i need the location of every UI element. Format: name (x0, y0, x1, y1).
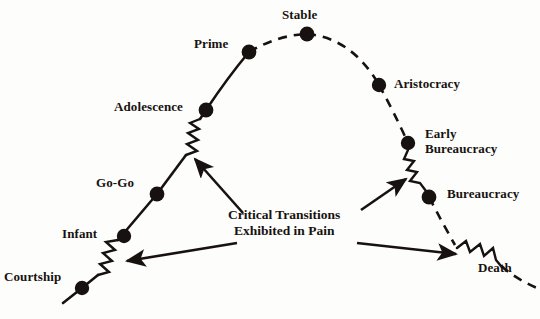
node-label-stable: Stable (282, 7, 317, 22)
node-label-early-bureaucracy-line1: Early (425, 126, 497, 141)
node-dot-stable[interactable] (300, 27, 315, 42)
callout-arrow-to-death-zigzag (357, 243, 456, 254)
critical-transitions-line1: Critical Transitions (228, 207, 340, 223)
transition-zigzag-earlybureaucracy-to-bureaucracy (404, 150, 426, 191)
node-label-infant: Infant (62, 226, 97, 241)
node-dot-courtship[interactable] (75, 281, 89, 295)
node-dot-prime[interactable] (242, 45, 257, 60)
node-label-early-bureaucracy-line2: Bureaucracy (425, 141, 497, 156)
node-label-aristocracy: Aristocracy (394, 76, 460, 91)
node-dot-infant[interactable] (117, 229, 131, 243)
lifecycle-curve-svg (0, 0, 540, 319)
node-label-prime: Prime (194, 36, 228, 51)
node-label-early-bureaucracy: Early Bureaucracy (425, 126, 497, 156)
curve-segment-stable-to-aristocracy (307, 34, 379, 85)
aging-curve-group (249, 34, 537, 288)
callout-arrow-to-courtship-zigzag (127, 243, 237, 261)
curve-segment-prime-to-stable (249, 34, 307, 52)
critical-transitions-line2: Exhibited in Pain (228, 223, 340, 239)
node-dot-adolescence[interactable] (199, 103, 214, 118)
node-dot-go-go[interactable] (150, 187, 165, 202)
node-label-adolescence: Adolescence (114, 99, 183, 114)
lifecycle-diagram: Courtship Infant Go-Go Adolescence Prime… (0, 0, 540, 319)
growth-curve-group (63, 52, 249, 303)
node-dot-aristocracy[interactable] (372, 78, 386, 92)
node-label-death: Death (478, 260, 512, 275)
transition-zigzag-gogo-to-adolescence (186, 119, 200, 155)
curve-segment-aristocracy-to-earlybureaucracy (379, 85, 408, 143)
node-label-go-go: Go-Go (96, 175, 134, 190)
callout-arrow-to-bureaucracy-zigzag (361, 179, 406, 210)
node-dots-group (75, 27, 437, 296)
curve-segment-bureaucracy-to-death (429, 197, 455, 245)
transition-zigzag-courtship-to-infant (98, 240, 118, 275)
critical-transitions-annotation: Critical Transitions Exhibited in Pain (228, 207, 340, 239)
node-dot-bureaucracy[interactable] (422, 190, 437, 205)
node-label-bureaucracy: Bureaucracy (447, 186, 519, 201)
node-dot-early-bureaucracy[interactable] (401, 136, 415, 150)
callout-arrow-to-adolescence-zigzag (195, 159, 243, 213)
node-label-courtship: Courtship (4, 269, 61, 284)
